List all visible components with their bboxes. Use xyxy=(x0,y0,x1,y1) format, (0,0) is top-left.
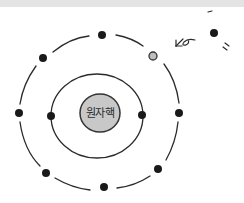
vacant-electron xyxy=(149,52,157,60)
atom-diagram xyxy=(0,0,244,203)
electron xyxy=(100,183,108,191)
arrow-icon xyxy=(176,39,195,46)
electron xyxy=(138,111,146,119)
electron xyxy=(154,165,162,173)
electron xyxy=(175,109,183,117)
nucleus-label: 원자핵 xyxy=(80,104,120,120)
electron xyxy=(42,169,50,177)
free-electron xyxy=(210,29,218,37)
electron xyxy=(15,109,23,117)
electron xyxy=(98,31,106,39)
electron xyxy=(39,54,47,62)
electron xyxy=(47,112,55,120)
